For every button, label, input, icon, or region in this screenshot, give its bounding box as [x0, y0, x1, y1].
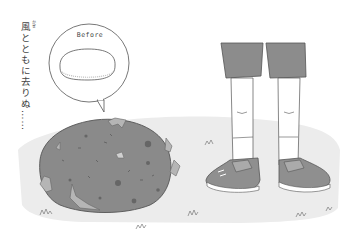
- scene-svg: [0, 0, 353, 240]
- illustration: かぜ 風とともに去りぬ…… Before: [0, 0, 353, 240]
- caption-vertical-text: 風とともに去りぬ……: [20, 22, 30, 131]
- shorts-right: [266, 43, 306, 78]
- shorts-left: [221, 43, 263, 78]
- before-blob-icon: [60, 49, 115, 80]
- caption-furigana: かぜ: [30, 20, 36, 28]
- bubble-label: Before: [70, 31, 110, 39]
